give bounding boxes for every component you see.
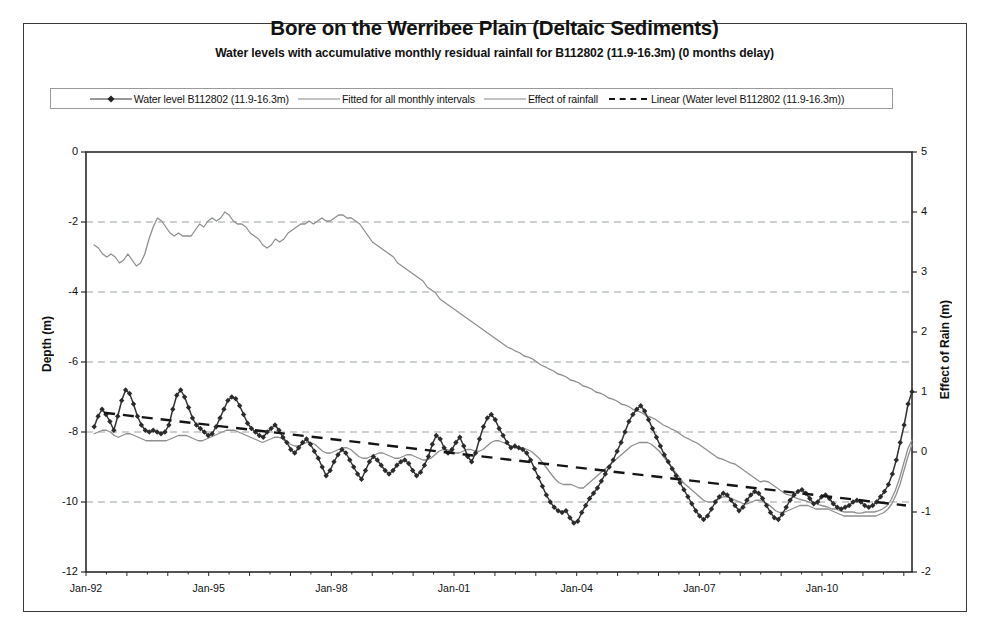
- x-axis-tick-label: Jan-01: [424, 582, 484, 594]
- x-axis-tick-label: Jan-95: [179, 582, 239, 594]
- y-axis-tick-label: -4: [44, 285, 78, 297]
- x-axis-tick-label: Jan-10: [792, 582, 852, 594]
- y2-axis-tick-label: -2: [921, 565, 955, 577]
- y2-axis-tick-label: -1: [921, 505, 955, 517]
- y2-axis-tick-label: 0: [921, 445, 955, 457]
- y2-axis-tick-label: 2: [921, 325, 955, 337]
- y2-axis-tick-label: 1: [921, 385, 955, 397]
- y2-axis-tick-label: 3: [921, 265, 955, 277]
- x-axis-tick-label: Jan-92: [56, 582, 116, 594]
- x-axis-tick-label: Jan-07: [669, 582, 729, 594]
- y-axis-tick-label: -6: [44, 355, 78, 367]
- y2-axis-tick-label: 5: [921, 145, 955, 157]
- plot-area-wrapper: [0, 0, 989, 633]
- x-axis-tick-label: Jan-04: [547, 582, 607, 594]
- y-axis-tick-label: -12: [44, 565, 78, 577]
- y-axis-tick-label: -10: [44, 495, 78, 507]
- y-axis-tick-label: -2: [44, 215, 78, 227]
- y-axis-tick-label: 0: [44, 145, 78, 157]
- y-axis-tick-label: -8: [44, 425, 78, 437]
- y2-axis-tick-label: 4: [921, 205, 955, 217]
- x-axis-tick-label: Jan-98: [301, 582, 361, 594]
- chart-plot: [0, 0, 989, 633]
